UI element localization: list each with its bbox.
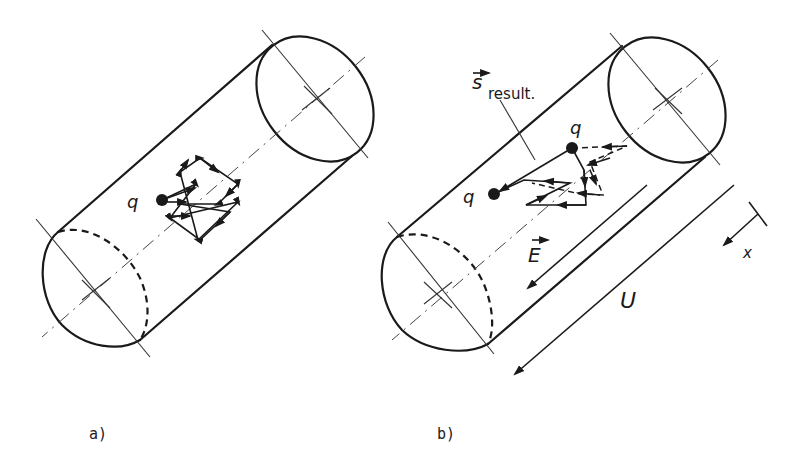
cylinder-b-left-end-visible	[382, 237, 488, 351]
s-result-symbol: s	[472, 70, 482, 94]
field-e-arrow: E	[528, 185, 647, 288]
field-e-label: E	[528, 243, 541, 267]
charge-label-b-start: q	[570, 117, 581, 138]
s-result-vector	[500, 148, 572, 191]
voltage-u-arrow: U	[515, 185, 734, 374]
panel-a-cylinder	[36, 13, 398, 357]
panel-b-drift-path: q q	[463, 117, 627, 207]
voltage-u-label: U	[620, 288, 636, 313]
cylinder-a-right-cross-1	[262, 30, 368, 158]
s-result-label: s result.	[472, 70, 535, 103]
caption-b: b)	[437, 425, 455, 443]
caption-a: a)	[89, 425, 107, 443]
s-result-leader-line	[500, 100, 535, 160]
cylinder-a-bottom-edge	[140, 156, 352, 340]
cylinder-a-left-cross-3	[82, 278, 110, 300]
cylinder-b-bottom-edge	[488, 157, 705, 344]
s-result-subscript: result.	[488, 85, 535, 103]
cylinder-b-right-cross-3	[653, 88, 682, 110]
panel-b-cylinder	[382, 14, 750, 354]
charge-label-a: q	[127, 191, 138, 212]
cylinder-a-left-cross-1	[36, 219, 150, 357]
charge-q-b-end	[488, 188, 500, 200]
cylinder-a-right-end	[232, 13, 398, 184]
x-axis-indicator: x	[724, 202, 767, 262]
diagram-canvas: q q q	[0, 0, 798, 470]
panel-a-random-walk: q	[127, 158, 238, 240]
cylinder-b-left-cross-1	[388, 222, 494, 354]
charge-label-b-end: q	[463, 186, 474, 207]
cylinder-b-top-edge	[397, 46, 622, 237]
x-axis-label: x	[742, 244, 752, 262]
cylinder-a-left-cross-2	[82, 280, 110, 308]
cylinder-b-right-cross-1	[610, 33, 720, 165]
